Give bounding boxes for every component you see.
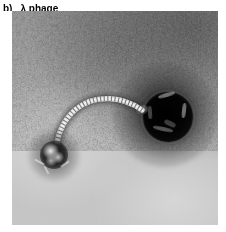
panel-letter: b) (3, 4, 12, 11)
page-margin-right (218, 11, 226, 232)
figure-panel: b) λ phage (0, 0, 226, 232)
electron-micrograph (12, 11, 218, 225)
page-margin-left (0, 11, 12, 232)
page-margin-bottom (0, 225, 226, 232)
figure-caption: b) λ phage (0, 0, 226, 11)
caption-label: λ phage (20, 4, 58, 11)
phage-virion (12, 11, 218, 225)
tail-tube (12, 11, 218, 225)
